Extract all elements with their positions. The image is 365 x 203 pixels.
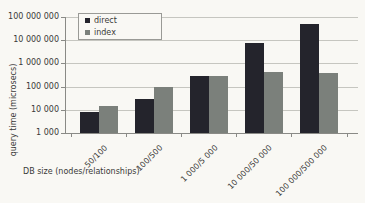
y-tick-label: 100 000 000 (0, 12, 59, 22)
x-category-label: 1 000/5 000 (179, 143, 220, 184)
bar-direct (80, 112, 99, 133)
bar-index (154, 87, 173, 133)
bar-chart-figure: 100 000 00010 000 0001 000 000100 00010 … (0, 0, 365, 203)
bar-direct (245, 43, 264, 133)
x-category-label: 50/100 (83, 143, 109, 169)
x-tick-mark (126, 133, 127, 137)
legend-label-index: index (94, 28, 116, 37)
legend-swatch-index (85, 30, 90, 35)
legend-entry-direct: direct (79, 15, 161, 27)
x-category-label: 100 000/500 000 (274, 143, 329, 198)
x-tick-mark (291, 133, 292, 137)
bar-index (99, 106, 118, 133)
legend-swatch-direct (85, 18, 90, 23)
y-axis-line (65, 17, 66, 133)
x-tick-mark (347, 133, 348, 137)
chart-legend: directindex (78, 13, 162, 40)
bar-index (209, 76, 228, 133)
bar-direct (300, 24, 319, 133)
bar-direct (190, 76, 209, 133)
x-category-label: 10 000/50 000 (226, 143, 274, 191)
x-tick-mark (71, 133, 72, 137)
bar-direct (135, 99, 154, 133)
legend-label-direct: direct (94, 16, 117, 25)
y-tick-label: 10 000 000 (0, 35, 59, 45)
bar-index (319, 73, 338, 133)
x-tick-mark (236, 133, 237, 137)
bar-index (264, 72, 283, 133)
x-tick-mark (181, 133, 182, 137)
y-axis-title: query time (microsecs) (9, 64, 18, 157)
x-axis-line (65, 133, 358, 134)
legend-entry-index: index (79, 27, 161, 39)
x-axis-title: DB size (nodes/relationships) (23, 167, 140, 176)
